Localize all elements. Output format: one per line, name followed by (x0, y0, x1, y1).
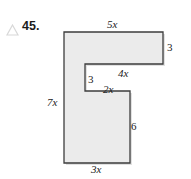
dimension-label-bottom: 3x (91, 164, 101, 175)
dimension-label-top: 5x (107, 19, 117, 30)
dimension-label-inner-horizontal: 4x (118, 68, 128, 79)
dimension-label-inner-lower: 2x (103, 84, 113, 95)
dimension-label-right-upper: 3 (167, 42, 173, 53)
dimension-label-inner-vertical: 3 (88, 74, 94, 85)
composite-polygon (64, 32, 163, 163)
dimension-label-left: 7x (47, 97, 57, 108)
exercise-figure-page: 45. 5x 3 4x 3 2x 7x 6 3x (0, 0, 191, 179)
dimension-label-right-lower: 6 (131, 121, 137, 132)
figure-container (0, 0, 191, 179)
